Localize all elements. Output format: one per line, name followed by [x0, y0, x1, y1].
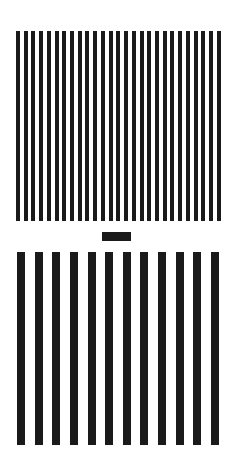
grating-bar: [93, 31, 97, 221]
grating-bar: [88, 252, 96, 445]
fixation-bar: [102, 232, 131, 241]
grating-bar: [158, 252, 166, 445]
grating-bar: [35, 252, 43, 445]
grating-bar: [209, 31, 213, 221]
grating-bar: [132, 31, 136, 221]
grating-bar: [140, 252, 148, 445]
grating-bar: [217, 31, 221, 221]
grating-bar: [17, 252, 25, 445]
grating-bar: [101, 31, 105, 221]
grating-bar: [124, 31, 128, 221]
grating-bar: [70, 31, 74, 221]
grating-bar: [155, 31, 159, 221]
grating-bar: [211, 252, 219, 445]
grating-bar: [147, 31, 151, 221]
grating-bar: [163, 31, 167, 221]
grating-bar: [47, 31, 51, 221]
grating-bar: [62, 31, 66, 221]
grating-bar: [85, 31, 89, 221]
grating-bar: [78, 31, 82, 221]
grating-bar: [39, 31, 43, 221]
grating-bar: [105, 252, 113, 445]
grating-bar: [52, 252, 60, 445]
grating-bar: [116, 31, 120, 221]
grating-bar: [123, 252, 131, 445]
grating-bar: [201, 31, 205, 221]
top-grating: [16, 31, 221, 221]
bottom-grating: [17, 252, 219, 445]
grating-bar: [24, 31, 28, 221]
grating-bar: [31, 31, 35, 221]
grating-bar: [70, 252, 78, 445]
grating-bar: [193, 252, 201, 445]
grating-bar: [194, 31, 198, 221]
grating-bar: [55, 31, 59, 221]
grating-bar: [140, 31, 144, 221]
grating-bar: [176, 252, 184, 445]
grating-bar: [16, 31, 20, 221]
grating-bar: [178, 31, 182, 221]
grating-bar: [109, 31, 113, 221]
grating-bar: [170, 31, 174, 221]
grating-bar: [186, 31, 190, 221]
